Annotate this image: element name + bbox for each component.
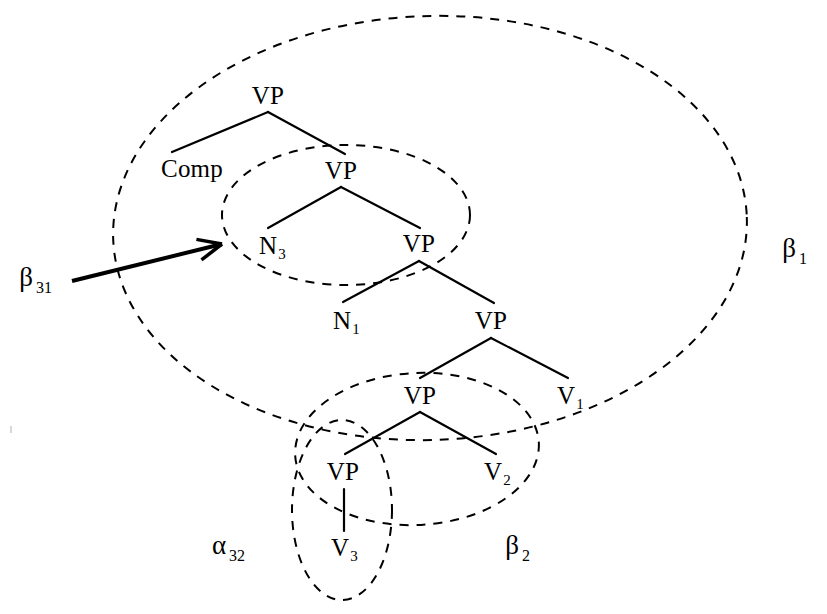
set-label-text: β [19, 262, 33, 292]
tree-node-subscript: 2 [503, 472, 511, 488]
tree-node-vp-3: VP [403, 231, 435, 256]
tree-node-label-text: VP [252, 82, 284, 109]
tree-node-label-text: VP [325, 157, 357, 184]
set-label-subscript: 31 [36, 279, 52, 296]
set-label-text: β [505, 530, 519, 560]
set-ellipse-group [106, 5, 754, 600]
tree-node-comp: Comp [161, 156, 223, 181]
tree-node-subscript: 3 [278, 246, 286, 262]
set-label-beta1: β1 [782, 235, 804, 262]
tree-node-vp-2: VP [325, 158, 357, 183]
tree-node-label-text: N [259, 232, 277, 259]
diagram-canvas: VPCompVPN3VPN1VPVPV1VPV2V3 β1β31β2α32 [0, 0, 827, 614]
tree-node-label-text: VP [327, 458, 359, 485]
tree-edge-vp-3-to-vp-4 [419, 261, 494, 303]
tree-edge-vp-4-to-vp-5 [420, 338, 491, 378]
tree-edge-vp-top-to-comp [172, 112, 268, 152]
tree-node-subscript: 1 [576, 396, 584, 412]
tree-edge-vp-2-to-n3 [268, 187, 341, 228]
tree-node-label-text: V [484, 458, 502, 485]
tree-node-v1: V1 [557, 383, 583, 408]
arrow-shaft [72, 244, 222, 281]
set-label-beta31: β31 [19, 264, 49, 291]
set-label-text: α [212, 530, 226, 560]
tree-edge-vp-5-to-v2 [420, 412, 496, 454]
scan-speck [10, 426, 12, 433]
set-ellipse-alpha32 [292, 420, 392, 600]
tree-edge-vp-2-to-vp-3 [341, 187, 420, 228]
tree-node-v3: V3 [331, 535, 357, 560]
tree-node-vp-4: VP [475, 308, 507, 333]
tree-node-label-text: VP [403, 230, 435, 257]
tree-edge-vp-4-to-v1 [491, 338, 568, 378]
tree-node-subscript: 1 [352, 321, 360, 337]
set-label-alpha32: α32 [212, 532, 242, 559]
tree-node-label-text: V [557, 382, 575, 409]
arrow-group [72, 239, 222, 281]
tree-node-v2: V2 [484, 459, 510, 484]
tree-node-n3: N3 [259, 233, 285, 258]
tree-node-label-text: V [331, 534, 349, 561]
tree-node-label-text: VP [475, 307, 507, 334]
set-label-text: β [782, 233, 796, 263]
tree-node-subscript: 3 [350, 548, 358, 564]
tree-edge-vp-3-to-n1 [343, 261, 419, 302]
set-label-subscript: 32 [229, 547, 245, 564]
set-label-subscript: 1 [799, 250, 807, 267]
tree-node-vp-6: VP [327, 459, 359, 484]
arrow-head-barb [196, 239, 222, 244]
tree-node-label-text: Comp [161, 155, 223, 182]
tree-node-vp-top: VP [252, 83, 284, 108]
tree-edge-vp-5-to-vp-6 [345, 412, 420, 454]
set-label-subscript: 2 [522, 547, 530, 564]
tree-node-label-text: N [333, 307, 351, 334]
set-label-beta2: β2 [505, 532, 527, 559]
diagram-svg [0, 0, 827, 614]
tree-node-n1: N1 [333, 308, 359, 333]
tree-node-vp-5: VP [404, 383, 436, 408]
tree-node-label-text: VP [404, 382, 436, 409]
